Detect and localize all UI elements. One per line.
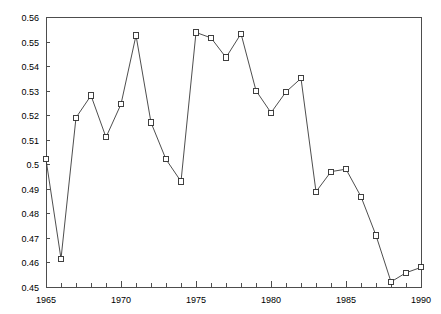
line-chart: 0.450.460.470.480.490.50.510.520.530.540… — [0, 0, 441, 314]
y-tick-label: 0.45 — [21, 283, 39, 293]
y-tick-label: 0.53 — [21, 87, 39, 97]
chart-canvas: 0.450.460.470.480.490.50.510.520.530.540… — [0, 0, 441, 314]
x-tick-label: 1975 — [186, 295, 206, 305]
data-point-marker — [373, 233, 378, 238]
data-point-marker — [403, 270, 408, 275]
data-point-marker — [223, 55, 228, 60]
data-point-marker — [58, 256, 63, 261]
y-tick-label: 0.56 — [21, 13, 39, 23]
data-point-marker — [253, 88, 258, 93]
data-point-marker — [268, 110, 273, 115]
data-point-marker — [328, 169, 333, 174]
data-point-marker — [298, 76, 303, 81]
data-point-marker — [343, 167, 348, 172]
data-point-marker — [88, 93, 93, 98]
data-point-marker — [388, 279, 393, 284]
data-point-marker — [118, 102, 123, 107]
data-point-marker — [163, 157, 168, 162]
data-point-marker — [103, 135, 108, 140]
x-tick-label: 1970 — [111, 295, 131, 305]
data-point-marker — [133, 33, 138, 38]
x-tick-label: 1965 — [36, 295, 56, 305]
x-tick-label: 1985 — [336, 295, 356, 305]
data-point-marker — [358, 194, 363, 199]
x-tick-label: 1990 — [411, 295, 431, 305]
y-tick-label: 0.46 — [21, 258, 39, 268]
data-point-marker — [238, 31, 243, 36]
data-point-marker — [313, 189, 318, 194]
data-point-marker — [193, 30, 198, 35]
data-point-marker — [178, 179, 183, 184]
y-tick-label: 0.5 — [26, 160, 39, 170]
data-point-marker — [43, 157, 48, 162]
y-tick-label: 0.48 — [21, 209, 39, 219]
chart-background — [0, 0, 441, 314]
y-tick-label: 0.55 — [21, 38, 39, 48]
data-point-marker — [148, 120, 153, 125]
x-tick-label: 1980 — [261, 295, 281, 305]
y-tick-label: 0.49 — [21, 185, 39, 195]
data-point-marker — [73, 115, 78, 120]
data-point-marker — [208, 35, 213, 40]
y-tick-label: 0.47 — [21, 234, 39, 244]
data-point-marker — [283, 89, 288, 94]
data-point-marker — [418, 265, 423, 270]
y-tick-label: 0.51 — [21, 136, 39, 146]
y-tick-label: 0.52 — [21, 111, 39, 121]
y-tick-label: 0.54 — [21, 62, 39, 72]
